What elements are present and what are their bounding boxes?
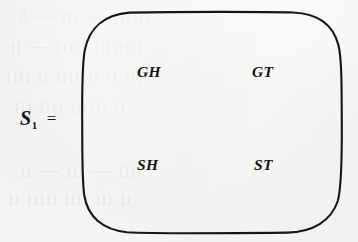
- set-member-gt: GT: [252, 64, 273, 80]
- set-name-label: S1 =: [20, 108, 56, 128]
- set-member-gh: GH: [137, 64, 161, 80]
- equals-sign: =: [47, 110, 57, 127]
- set-boundary-rounded-rectangle: [81, 11, 343, 234]
- set-diagram-figure: é — ııı — ıııııı ıı — ııııı ıııııııı ııı…: [0, 0, 358, 242]
- set-member-st: ST: [254, 157, 273, 173]
- set-symbol: S: [20, 108, 31, 128]
- set-member-sh: SH: [137, 157, 158, 173]
- set-boundary-path: [82, 12, 342, 233]
- set-subscript: 1: [32, 120, 38, 131]
